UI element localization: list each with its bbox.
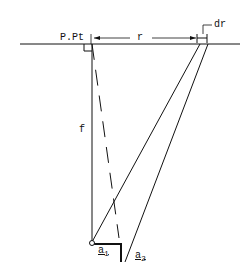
- radial-increment-label: dr: [214, 20, 226, 30]
- lens-geometry-diagram: [0, 0, 251, 262]
- ray-outer: [125, 44, 208, 262]
- r-arrow-head-right: [190, 36, 196, 40]
- radial-distance-label: r: [137, 33, 143, 43]
- area-1-subscript: 1: [104, 249, 109, 258]
- principal-point-label: P.Pt: [60, 33, 84, 43]
- area-2-subscript: 2: [141, 254, 146, 262]
- dr-leader: [203, 25, 212, 34]
- focal-length-label: f: [79, 125, 85, 135]
- r-arrow-head-left: [94, 36, 100, 40]
- perspective-center-icon: [90, 241, 95, 246]
- area-1-label: a1: [98, 246, 109, 258]
- area-2-label: a2: [135, 251, 146, 262]
- dashed-ray: [92, 44, 119, 238]
- ray-inner: [92, 44, 200, 242]
- right-angle-marker: [84, 44, 92, 51]
